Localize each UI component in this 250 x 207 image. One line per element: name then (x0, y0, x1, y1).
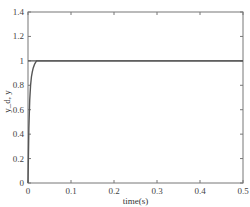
x-axis-label: time(s) (123, 196, 149, 206)
y-tick-label: 0.4 (13, 129, 25, 139)
line-chart: 00.10.20.30.40.5 00.20.40.60.811.21.4 ti… (0, 0, 250, 207)
y-tick-label: 1.4 (13, 7, 25, 17)
y-tick-label: 1 (20, 56, 25, 66)
series-y (28, 61, 243, 183)
y-tick-label: 0.6 (13, 105, 25, 115)
x-axis-ticks: 00.10.20.30.40.5 (26, 12, 249, 196)
x-tick-label: 0.1 (65, 186, 76, 196)
y-axis-label: y_d, y (2, 90, 12, 113)
x-tick-label: 0.4 (194, 186, 206, 196)
x-tick-label: 0.3 (151, 186, 163, 196)
axes-frame (28, 12, 243, 183)
x-tick-label: 0.2 (108, 186, 119, 196)
y-tick-label: 0.8 (13, 80, 25, 90)
y-axis-ticks: 00.20.40.60.811.21.4 (13, 7, 243, 188)
x-tick-label: 0.5 (237, 186, 249, 196)
y-tick-label: 1.2 (13, 31, 24, 41)
y-tick-label: 0.2 (13, 154, 24, 164)
data-series (28, 61, 243, 183)
y-tick-label: 0 (20, 178, 25, 188)
plot-area: 00.10.20.30.40.5 00.20.40.60.811.21.4 (13, 7, 249, 196)
x-tick-label: 0 (26, 186, 31, 196)
